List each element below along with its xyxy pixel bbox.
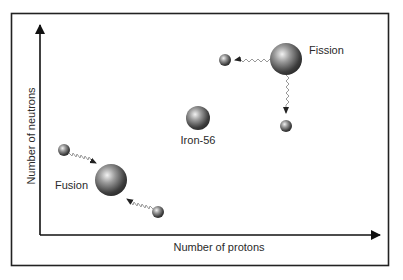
fusion-label: Fusion bbox=[55, 179, 88, 191]
fusion-wave-2 bbox=[127, 199, 153, 209]
x-axis-label: Number of protons bbox=[173, 241, 265, 253]
fusion-reactant-nucleus-2 bbox=[152, 206, 164, 218]
fusion-fission-diagram: Number of protons Number of neutrons Fus… bbox=[0, 0, 403, 280]
fusion-reactant-nucleus-1 bbox=[58, 144, 70, 156]
iron-56-nucleus bbox=[186, 106, 210, 130]
y-axis-label: Number of neutrons bbox=[25, 87, 37, 185]
fission-label: Fission bbox=[309, 44, 344, 56]
fission-fragment-nucleus-2 bbox=[280, 120, 292, 132]
fission-fragment-nucleus-1 bbox=[219, 54, 231, 66]
fission-wave-left bbox=[235, 59, 270, 62]
fusion-wave-1 bbox=[69, 153, 96, 163]
fission-wave-down bbox=[286, 75, 289, 113]
iron-56-label: Iron-56 bbox=[181, 134, 216, 146]
fission-parent-nucleus bbox=[270, 43, 302, 75]
fusion-product-nucleus bbox=[95, 164, 127, 196]
